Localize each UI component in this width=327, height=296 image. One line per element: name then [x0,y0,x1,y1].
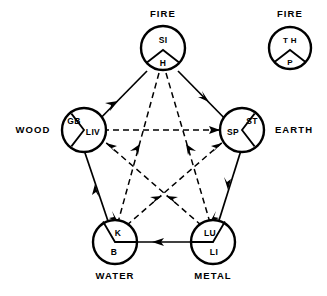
node-inset-fire-outer-organ: T H [283,36,297,45]
node-wood-outer-organ: GB [67,116,80,126]
arrowhead-ke-h-lu-mid [186,144,196,155]
node-fire-inner-organ: H [160,58,167,68]
node-water[interactable]: K B [93,220,137,264]
arrowhead-ke-liv-sp [209,126,220,134]
arrowhead-ke-lu-liv-mid [166,196,178,203]
node-water-inner-organ: K [115,228,122,238]
node-earth-inner-organ: SP [227,127,239,137]
element-label-inset-fire: FIRE [277,8,303,19]
node-earth[interactable]: ST SP [220,108,264,152]
node-metal[interactable]: LU LI [191,220,235,264]
node-fire[interactable]: SI H [141,26,185,70]
ke-edge-liv-sp [103,126,222,134]
sheng-edge-sp-lu [216,144,243,230]
element-label-earth: EARTH [275,124,313,135]
node-inset-fire[interactable]: T H P [269,27,311,69]
node-metal-outer-organ: LI [210,247,218,257]
element-label-metal: METAL [194,270,232,281]
node-fire-outer-organ: SI [159,35,168,45]
ke-edge-h-lu [166,73,219,226]
element-label-wood: WOOD [15,124,50,135]
element-label-fire: FIRE [150,8,176,19]
node-wood[interactable]: GB LIV [62,108,106,152]
node-metal-inner-organ: LU [204,228,216,238]
node-wood-inner-organ: LIV [86,127,100,137]
node-earth-outer-organ: ST [246,116,258,126]
diagram-canvas: SI H FIRE GB LIV WOOD ST SP EARTH K B WA… [0,0,327,296]
node-inset-fire-inner-organ: P [287,58,293,67]
node-water-outer-organ: B [111,247,118,257]
arrowhead-ke-k-sp-mid [150,196,162,203]
sheng-edge-k-liv [82,144,111,230]
five-elements-diagram: SI H FIRE GB LIV WOOD ST SP EARTH K B WA… [0,0,327,296]
element-label-water: WATER [95,270,134,281]
arrowhead-sheng-liv-h [105,101,118,111]
arrowhead-ke-h-k-mid [130,144,140,155]
